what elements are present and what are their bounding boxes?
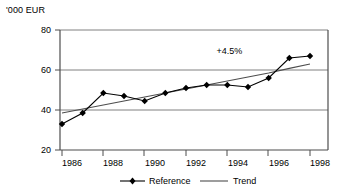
chart-container: '000 EUR 80 60 40 20 [0,0,344,196]
data-point-marker [245,84,251,90]
x-tick-label-1998: 1998 [310,158,330,168]
series-markers-reference [59,53,313,127]
x-axis-ticks: 1986 1988 1990 1992 1994 1996 1998 [62,150,330,168]
x-tick-label-1988: 1988 [103,158,123,168]
data-point-marker [307,53,313,59]
legend-label-trend: Trend [233,176,256,186]
data-point-marker [162,90,168,96]
axes [60,30,328,150]
x-tick-label-1996: 1996 [269,158,289,168]
x-tick-label-1990: 1990 [145,158,165,168]
x-tick-label-1986: 1986 [62,158,82,168]
y-tick-label-80: 80 [41,25,51,35]
data-point-marker [141,98,147,104]
data-point-marker [121,93,127,99]
chart-legend: Reference Trend [120,176,256,186]
y-tick-label-60: 60 [41,65,51,75]
x-tick-label-1992: 1992 [186,158,206,168]
x-tick-label-1994: 1994 [228,158,248,168]
gridlines [60,30,328,110]
data-point-marker [224,82,230,88]
data-point-marker [203,82,209,88]
legend-label-reference: Reference [149,176,191,186]
legend-marker-diamond-icon [130,178,136,185]
y-tick-label-40: 40 [41,105,51,115]
y-tick-label-20: 20 [41,145,51,155]
chart-plot: 80 60 40 20 1986 1988 1990 1992 1994 199… [0,0,344,196]
growth-rate-annotation: +4.5% [217,46,243,56]
data-point-marker [183,85,189,91]
y-axis-ticks: 80 60 40 20 [41,25,60,155]
